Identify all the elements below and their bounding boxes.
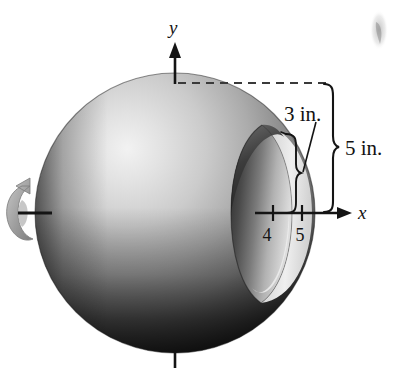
- figure-container: x 4 5 y 3 in. 5 in.: [0, 0, 396, 379]
- y-axis-label: y: [167, 17, 178, 38]
- x-tick-label-5: 5: [296, 225, 305, 245]
- x-axis-label: x: [357, 202, 367, 223]
- outer-dimension-label: 5 in.: [345, 136, 382, 160]
- geometry-figure: x 4 5 y 3 in. 5 in.: [0, 0, 396, 379]
- inner-dimension-label: 3 in.: [284, 102, 321, 126]
- scan-artifact: [370, 10, 388, 50]
- x-tick-label-4: 4: [263, 225, 272, 245]
